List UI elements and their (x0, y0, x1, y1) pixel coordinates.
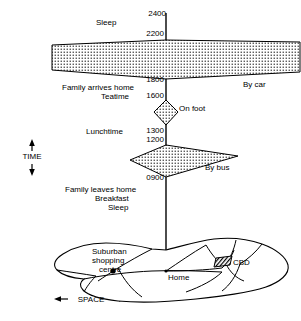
activity-label-sleep-night: Sleep (96, 18, 116, 27)
time-mark-0900: 0900 (128, 173, 164, 182)
time-mark-1300: 1300 (128, 126, 164, 135)
activity-label-family-arrives-home: Family arrives home (62, 83, 134, 92)
mode-label-by-car: By car (243, 80, 266, 89)
time-mark-2400: 2400 (132, 9, 166, 18)
activity-label-sleep-morning: Sleep (108, 203, 128, 212)
by-car-prism (52, 40, 300, 79)
activity-label-lunchtime: Lunchtime (86, 127, 123, 136)
time-mark-1600: 1600 (128, 91, 164, 100)
time-mark-2200: 2200 (128, 29, 164, 38)
map-label-home: Home (168, 273, 189, 282)
map-label-centre: centre (99, 265, 121, 274)
activity-label-teatime: Teatime (101, 92, 129, 101)
on-foot-prism (154, 100, 178, 125)
time-mark-1200: 1200 (128, 135, 164, 144)
activity-label-breakfast: Breakfast (95, 194, 129, 203)
map-label-cbd: CBD (233, 258, 250, 267)
activity-label-family-leaves-home: Family leaves home (65, 185, 136, 194)
city-outline (55, 238, 289, 302)
cbd-block (214, 256, 232, 267)
map-label-suburban: Suburban (92, 247, 127, 256)
mode-label-by-bus: By bus (205, 163, 229, 172)
diagram-canvas: 2400 2200 1800 1600 1300 1200 0900 Sleep… (0, 0, 301, 321)
mode-label-on-foot: On foot (179, 104, 205, 113)
time-axis-label: TIME (14, 152, 50, 161)
map-label-shopping: shopping (92, 256, 124, 265)
space-axis-label: SPACE (70, 295, 112, 304)
